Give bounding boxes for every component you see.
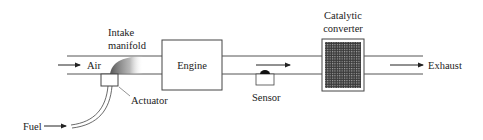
engine-schematic-diagram: Air Intake manifold Actuator Fuel Engine… [0, 0, 483, 140]
sensor-box [256, 74, 274, 85]
catalytic-converter-label-line2: converter [323, 23, 363, 34]
sensor-label: Sensor [252, 92, 281, 103]
air-label: Air [87, 60, 102, 71]
actuator-label: Actuator [131, 95, 168, 106]
fuel-pipe [71, 86, 112, 128]
intake-manifold-label-line2: manifold [108, 40, 147, 51]
actuator-leader-line [119, 87, 130, 96]
catalytic-converter-label-line1: Catalytic [324, 10, 362, 21]
catalytic-converter-mesh [325, 42, 361, 88]
intake-manifold-plume [110, 56, 143, 74]
fuel-label: Fuel [23, 121, 42, 132]
intake-manifold-label-line1: Intake [108, 27, 135, 38]
sensor-probe-icon [260, 70, 270, 74]
exhaust-label: Exhaust [428, 60, 462, 71]
engine-label: Engine [177, 60, 207, 71]
actuator-box [101, 74, 118, 86]
